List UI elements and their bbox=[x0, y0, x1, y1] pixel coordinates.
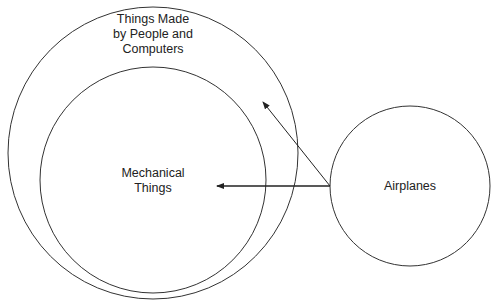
inner-label: Mechanical Things bbox=[121, 166, 184, 196]
airplanes-label-line: Airplanes bbox=[384, 179, 436, 194]
inner-label-line: Things bbox=[121, 181, 184, 196]
outer-label: Things Made by People and Computers bbox=[113, 12, 193, 57]
inner-label-line: Mechanical bbox=[121, 166, 184, 181]
airplanes-label: Airplanes bbox=[384, 179, 436, 194]
outer-label-line: Computers bbox=[113, 42, 193, 57]
venn-diagram bbox=[0, 0, 499, 303]
outer-label-line: by People and bbox=[113, 27, 193, 42]
outer-label-line: Things Made bbox=[113, 12, 193, 27]
